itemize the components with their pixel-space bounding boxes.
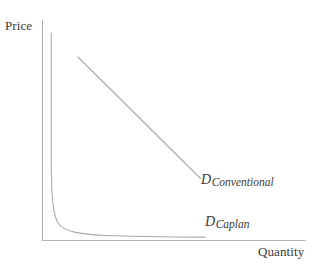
curve-symbol-caplan: D xyxy=(205,214,215,229)
curve-subscript-caplan: Caplan xyxy=(216,218,250,230)
demand-curve-figure: Price Quantity DConventional DCaplan xyxy=(0,0,322,270)
x-axis-label: Quantity xyxy=(258,244,304,260)
curve-symbol-conventional: D xyxy=(201,172,211,187)
curve-label-caplan: DCaplan xyxy=(205,212,249,230)
chart-canvas xyxy=(0,0,322,270)
demand-curve-conventional xyxy=(78,57,201,179)
curve-subscript-conventional: Conventional xyxy=(212,176,274,188)
demand-curve-caplan xyxy=(51,33,205,237)
y-axis-label: Price xyxy=(5,18,32,34)
curve-label-conventional: DConventional xyxy=(201,170,273,188)
